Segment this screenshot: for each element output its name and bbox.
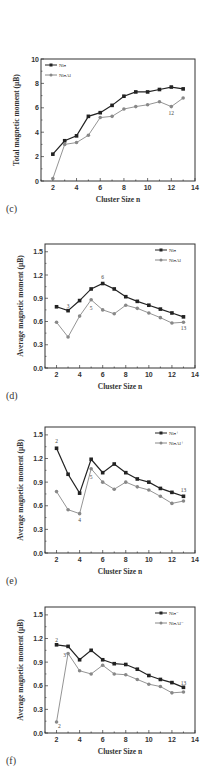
data-point (147, 303, 151, 307)
data-point (112, 312, 116, 316)
data-point (51, 152, 55, 156)
data-point (134, 105, 138, 109)
legend-entry: NiₙAl⁺ (169, 441, 184, 446)
data-point (112, 662, 116, 666)
data-point (78, 669, 82, 673)
y-tick-label: 8 (35, 80, 39, 87)
data-point (182, 686, 186, 690)
data-point (170, 321, 174, 325)
data-point (89, 672, 93, 676)
x-tick-label: 8 (122, 184, 126, 191)
x-tick-label: 4 (75, 184, 79, 191)
data-point (122, 94, 126, 98)
legend-entry: NiₙAl⁻ (169, 621, 184, 626)
x-tick-label: 10 (144, 184, 152, 191)
data-point (170, 491, 174, 495)
data-point (55, 320, 59, 324)
y-tick-label: 10 (31, 56, 39, 63)
x-tick-label: 4 (78, 736, 82, 743)
data-point (66, 652, 70, 656)
data-point (159, 487, 163, 491)
data-point (170, 105, 174, 109)
y-tick-label: 0.6 (33, 502, 43, 509)
point-annotation: 3 (67, 303, 70, 309)
y-tick-label: 0.3 (33, 526, 43, 533)
data-point (170, 85, 174, 89)
y-axis-title: Average magnetic moment (μB) (16, 439, 25, 541)
data-point (75, 141, 79, 145)
y-tick-label: 0.0 (33, 730, 43, 737)
legend-entry: NiₙAl (169, 258, 182, 263)
x-tick-label: 14 (191, 371, 199, 378)
point-annotation: 2 (58, 723, 61, 729)
x-tick-label: 2 (51, 184, 55, 191)
data-point (66, 472, 70, 476)
x-tick-label: 2 (55, 736, 59, 743)
data-point (124, 480, 128, 484)
data-point (147, 674, 151, 678)
data-point (101, 282, 105, 286)
y-tick-label: 1.5 (33, 248, 43, 255)
data-point (66, 309, 70, 313)
point-annotation: 5 (90, 305, 93, 311)
x-tick-label: 4 (78, 371, 82, 378)
y-tick-label: 0.0 (33, 365, 43, 372)
data-point (63, 139, 67, 143)
data-point (159, 678, 163, 682)
data-point (87, 133, 91, 137)
data-point (98, 116, 102, 120)
legend-entry: Niₙ⁺ (169, 431, 179, 436)
x-tick-label: 14 (191, 556, 199, 563)
chart-c: 24681012140246810Cluster Size nTotal mag… (12, 56, 199, 205)
data-point (78, 512, 82, 516)
series-line (57, 284, 184, 317)
x-axis-title: Cluster Size n (98, 382, 143, 391)
data-point (78, 491, 82, 495)
data-point (181, 96, 185, 100)
y-axis-title: Average magnetic moment (μB) (16, 255, 25, 357)
data-point (170, 502, 174, 506)
data-point (147, 682, 151, 686)
y-tick-label: 1.5 (33, 431, 43, 438)
data-point (124, 295, 128, 299)
data-point (147, 480, 151, 484)
data-point (66, 508, 70, 512)
y-tick-label: 2 (35, 153, 39, 160)
data-point (182, 320, 186, 324)
data-point (101, 308, 105, 312)
data-point (146, 90, 150, 94)
data-point (136, 485, 140, 489)
x-tick-label: 8 (124, 556, 128, 563)
series-line (57, 645, 184, 688)
legend-entry: Niₙ⁻ (169, 611, 179, 616)
data-point (158, 100, 162, 104)
data-point (124, 673, 128, 677)
point-annotation: 2 (55, 438, 58, 444)
series-line (57, 469, 184, 514)
data-point (66, 335, 70, 339)
y-tick-label: 0.3 (33, 341, 43, 348)
data-point (124, 303, 128, 307)
x-tick-label: 10 (145, 736, 153, 743)
data-point (122, 107, 126, 111)
series-line (57, 448, 184, 496)
data-point (101, 658, 105, 662)
data-point (110, 104, 114, 108)
y-tick-label: 0 (35, 178, 39, 185)
chart-d: 24681012140.00.30.60.91.21.5Cluster Size… (16, 244, 199, 391)
data-point (136, 667, 140, 671)
y-axis-title: Average magnetic moment (μB) (16, 619, 25, 721)
y-tick-label: 0.3 (33, 706, 43, 713)
data-point (170, 681, 174, 685)
panel-label-e: (e) (6, 575, 17, 586)
series-line (57, 300, 184, 337)
y-tick-label: 1.2 (33, 272, 43, 279)
x-tick-label: 10 (145, 556, 153, 563)
x-axis-title: Cluster Size n (96, 195, 141, 204)
x-axis-title: Cluster Size n (98, 747, 143, 756)
data-point (112, 287, 116, 291)
data-point (55, 446, 59, 450)
point-annotation: 13 (181, 325, 187, 331)
x-tick-label: 14 (191, 184, 199, 191)
data-point (182, 495, 186, 499)
